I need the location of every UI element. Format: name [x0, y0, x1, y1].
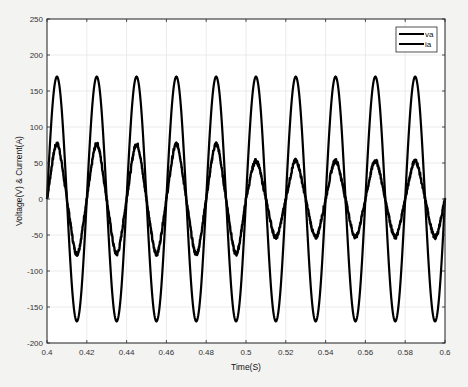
- legend-label-ia: ia: [425, 40, 432, 49]
- y-tick-label: -50: [31, 231, 43, 240]
- x-tick-label: 0.5: [240, 348, 252, 357]
- y-tick-label: 100: [30, 123, 44, 132]
- y-tick-label: 50: [34, 159, 43, 168]
- x-tick-label: 0.56: [358, 348, 374, 357]
- y-tick-label: -100: [27, 267, 44, 276]
- x-tick-label: 0.42: [79, 348, 95, 357]
- x-tick-label: 0.54: [318, 348, 334, 357]
- chart-figure: 0.40.420.440.460.480.50.520.540.560.580.…: [0, 0, 468, 387]
- x-axis-label: Time(S): [231, 362, 261, 372]
- x-tick-label: 0.46: [159, 348, 175, 357]
- y-tick-label: -150: [27, 303, 44, 312]
- x-tick-label: 0.44: [119, 348, 135, 357]
- legend-label-va: va: [425, 30, 434, 39]
- legend: va ia: [396, 27, 437, 52]
- x-tick-label: 0.58: [397, 348, 413, 357]
- x-tick-label: 0.52: [278, 348, 294, 357]
- y-tick-label: -200: [27, 339, 44, 348]
- x-tick-label: 0.6: [439, 348, 451, 357]
- y-tick-label: 200: [30, 51, 44, 60]
- y-tick-label: 250: [30, 15, 44, 24]
- x-tick-label: 0.48: [198, 348, 214, 357]
- y-tick-label: 0: [39, 195, 44, 204]
- y-tick-label: 150: [30, 87, 44, 96]
- y-axis-label: Voltage(V) & Current(A): [14, 136, 24, 226]
- x-tick-label: 0.4: [41, 348, 53, 357]
